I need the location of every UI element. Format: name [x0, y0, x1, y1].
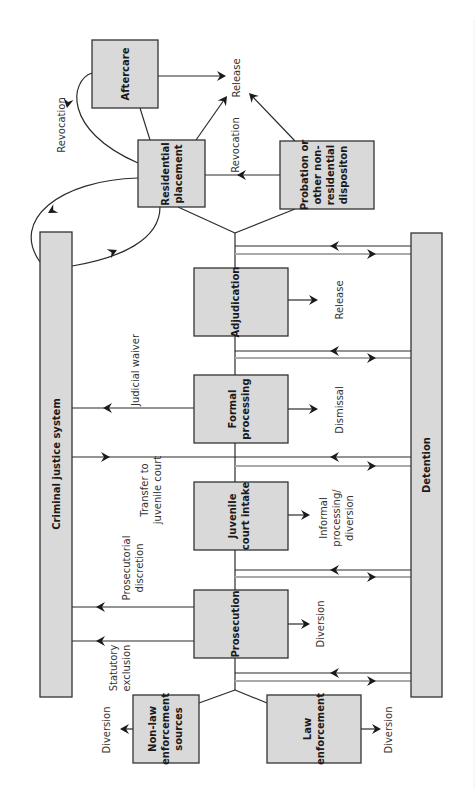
probation-box: Probation or other non- residential disp…: [280, 140, 374, 211]
svg-text:processing: processing: [240, 378, 251, 439]
svg-text:enforcement: enforcement: [315, 693, 326, 765]
svg-text:discretion: discretion: [134, 543, 145, 592]
svg-text:Diversion: Diversion: [101, 706, 112, 753]
svg-text:processing/: processing/: [331, 489, 342, 547]
svg-text:Juvenile: Juvenile: [227, 493, 238, 539]
svg-text:Probation or: Probation or: [299, 140, 310, 211]
svg-text:Dismissal: Dismissal: [334, 386, 345, 434]
non-law-enforcement-box: Non-law enforcement sources: [133, 693, 199, 765]
detention-bar: Detention: [411, 233, 442, 697]
svg-text:Judicial waiver: Judicial waiver: [130, 333, 141, 407]
svg-text:placement: placement: [173, 144, 184, 203]
svg-text:Revocation: Revocation: [56, 97, 67, 152]
svg-text:Residential: Residential: [160, 142, 171, 205]
svg-text:exclusion: exclusion: [121, 645, 132, 692]
svg-text:Release: Release: [334, 280, 345, 319]
svg-text:juvenile court: juvenile court: [152, 456, 163, 525]
svg-text:Release: Release: [231, 58, 242, 97]
svg-text:dispositon: dispositon: [338, 146, 349, 205]
svg-text:Diversion: Diversion: [383, 706, 394, 753]
svg-text:other non-: other non-: [312, 145, 323, 204]
svg-text:Prosecutorial: Prosecutorial: [121, 536, 132, 601]
cjs-label: Criminal justice system: [51, 398, 62, 530]
svg-text:Transfer to: Transfer to: [139, 463, 150, 517]
svg-text:Diversion: Diversion: [315, 600, 326, 647]
svg-text:enforcement: enforcement: [160, 693, 171, 765]
juvenile-court-intake-box: Juvenile court intake: [194, 482, 288, 551]
aftercare-label: Aftercare: [120, 47, 131, 100]
prosecution-box: Prosecution: [194, 590, 288, 658]
svg-text:residential: residential: [325, 145, 336, 206]
law-enforcement-box: Law enforcement: [267, 693, 361, 765]
residential-placement-box: Residential placement: [138, 140, 205, 207]
svg-text:Non-law: Non-law: [147, 706, 158, 752]
juvenile-justice-flowchart: Criminal justice system Detention Afterc…: [0, 0, 476, 794]
formal-processing-box: Formal processing: [194, 375, 288, 443]
svg-text:Informal: Informal: [318, 497, 329, 539]
svg-text:Revocation: Revocation: [230, 117, 241, 172]
svg-text:sources: sources: [173, 707, 184, 751]
svg-text:Prosecution: Prosecution: [230, 590, 241, 657]
aftercare-box: Aftercare: [92, 40, 158, 108]
detention-label: Detention: [421, 437, 432, 493]
criminal-justice-system-bar: Criminal justice system: [40, 232, 72, 697]
svg-text:Statutory: Statutory: [108, 645, 119, 692]
adjudication-box: Adjudication: [194, 267, 288, 338]
svg-text:Adjudication: Adjudication: [230, 267, 241, 338]
svg-text:Formal: Formal: [227, 390, 238, 429]
svg-text:court intake: court intake: [240, 482, 251, 551]
svg-text:Law: Law: [302, 718, 313, 740]
svg-text:diversion: diversion: [344, 495, 355, 541]
